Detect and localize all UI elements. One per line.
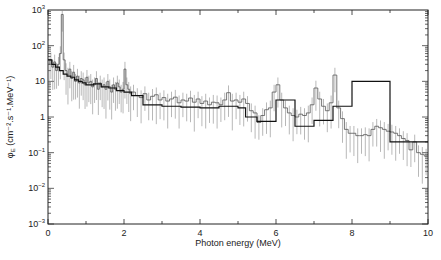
x-tick-label: 2 xyxy=(121,228,126,238)
y-tick-label: 10−2 xyxy=(28,182,46,193)
y-tick-label: 10 xyxy=(35,76,45,86)
spectrum-chart: 10310210110−110−210−3 0246810 Photon ene… xyxy=(0,0,441,260)
x-axis-title: Photon energy (MeV) xyxy=(195,238,281,248)
y-tick-label: 103 xyxy=(32,4,46,15)
axis-ticks xyxy=(48,10,428,224)
error-bars xyxy=(49,10,426,184)
y-tick-labels: 10310210110−110−210−3 xyxy=(28,4,46,229)
x-tick-label: 4 xyxy=(197,228,202,238)
y-tick-label: 1 xyxy=(40,112,45,122)
x-tick-label: 0 xyxy=(45,228,50,238)
x-tick-label: 10 xyxy=(423,228,433,238)
y-tick-label: 10−1 xyxy=(28,147,46,158)
x-tick-label: 6 xyxy=(273,228,278,238)
x-tick-labels: 0246810 xyxy=(45,228,433,238)
x-tick-label: 8 xyxy=(349,228,354,238)
fine-spectrum-line xyxy=(48,14,428,156)
y-axis-title: φE (cm⁻².s⁻¹.MeV⁻¹) xyxy=(5,76,16,158)
y-tick-label: 10−3 xyxy=(28,218,46,229)
plot-frame xyxy=(48,10,428,224)
y-tick-label: 102 xyxy=(32,40,46,51)
